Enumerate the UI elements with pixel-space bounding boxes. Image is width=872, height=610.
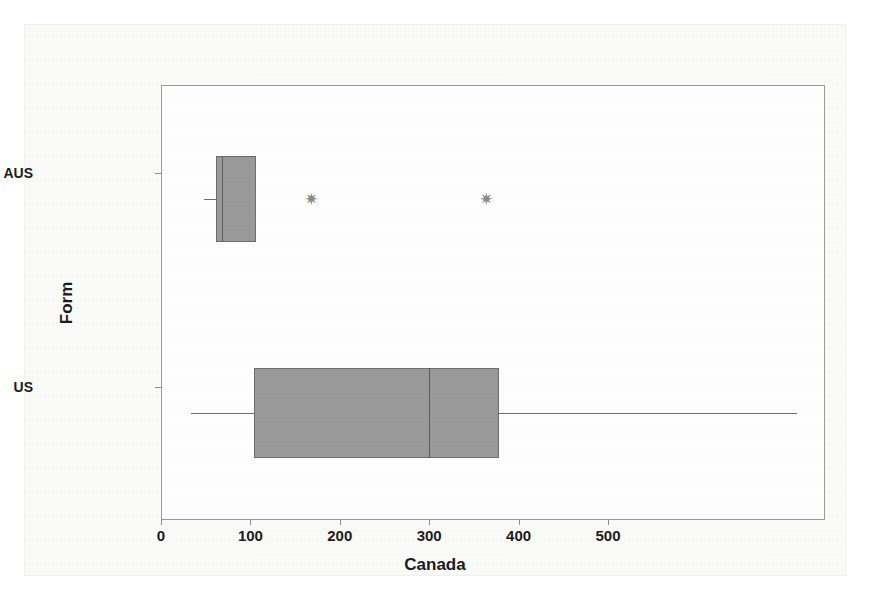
box-whisker-low [204,199,216,200]
x-tick-label: 500 [595,527,620,544]
x-tick-mark [429,520,430,525]
x-tick-label: 200 [327,527,352,544]
x-tick-label: 400 [506,527,531,544]
x-axis-title: Canada [25,555,845,575]
y-axis-title: Form [57,282,77,325]
outlier-marker: ✷ [479,191,493,208]
outlier-marker: ✷ [304,191,318,208]
y-tick-mark [155,387,161,388]
plot-frame: ✷✷ [161,85,825,520]
x-tick-label: 0 [157,527,165,544]
box-median-line [429,368,430,458]
x-tick-mark [340,520,341,525]
x-tick-label: 100 [238,527,263,544]
x-tick-mark [519,520,520,525]
scanned-page-sheet: ✷✷ 0100200300400500AUSUS Canada Form [25,25,845,575]
box-median-line [222,156,223,242]
box-whisker-high [499,413,797,414]
y-tick-label-us: US [14,379,33,395]
y-tick-mark [155,173,161,174]
box-plot-box [254,368,499,458]
y-tick-label-aus: AUS [3,165,33,181]
x-tick-mark [250,520,251,525]
plot-area: ✷✷ [162,86,824,519]
box-whisker-low [191,413,254,414]
x-tick-mark [608,520,609,525]
x-tick-mark [161,520,162,525]
x-tick-label: 300 [417,527,442,544]
